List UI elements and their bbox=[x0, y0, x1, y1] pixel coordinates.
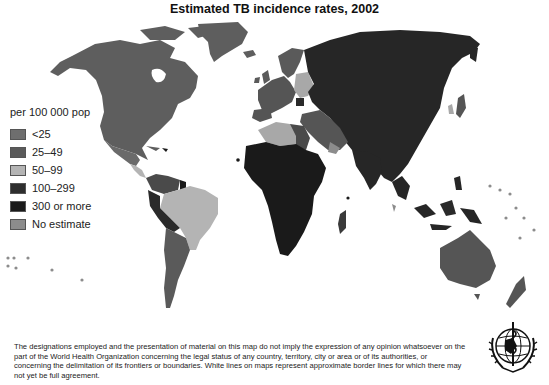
legend-label: 300 or more bbox=[32, 200, 91, 212]
legend-item-300-plus: 300 or more bbox=[10, 197, 110, 215]
legend-swatch bbox=[10, 183, 26, 194]
legend-item-100-299: 100–299 bbox=[10, 179, 110, 197]
legend-item-25-49: 25–49 bbox=[10, 143, 110, 161]
disclaimer-text: The designations employed and the presen… bbox=[14, 342, 466, 380]
region-australia bbox=[440, 230, 496, 288]
who-emblem-icon bbox=[483, 316, 543, 378]
region-russia-asia bbox=[304, 30, 480, 182]
legend-label: 50–99 bbox=[32, 164, 63, 176]
legend-item-lt25: <25 bbox=[10, 125, 110, 143]
legend-swatch bbox=[10, 201, 26, 212]
legend-swatch bbox=[10, 129, 26, 140]
legend-title: per 100 000 pop bbox=[10, 106, 110, 118]
legend-item-no-estimate: No estimate bbox=[10, 215, 110, 233]
legend-swatch bbox=[10, 147, 26, 158]
region-new-zealand bbox=[506, 276, 526, 308]
legend-label: 100–299 bbox=[32, 182, 75, 194]
legend-swatch bbox=[10, 165, 26, 176]
legend-item-50-99: 50–99 bbox=[10, 161, 110, 179]
legend-label: No estimate bbox=[32, 218, 91, 230]
region-greenland bbox=[198, 22, 248, 62]
legend-label: <25 bbox=[32, 128, 51, 140]
region-africa bbox=[244, 142, 326, 256]
legend: per 100 000 pop <25 25–49 50–99 100–299 … bbox=[10, 106, 110, 233]
legend-swatch bbox=[10, 219, 26, 230]
legend-label: 25–49 bbox=[32, 146, 63, 158]
region-japan bbox=[456, 94, 466, 118]
map-title: Estimated TB incidence rates, 2002 bbox=[0, 2, 549, 16]
